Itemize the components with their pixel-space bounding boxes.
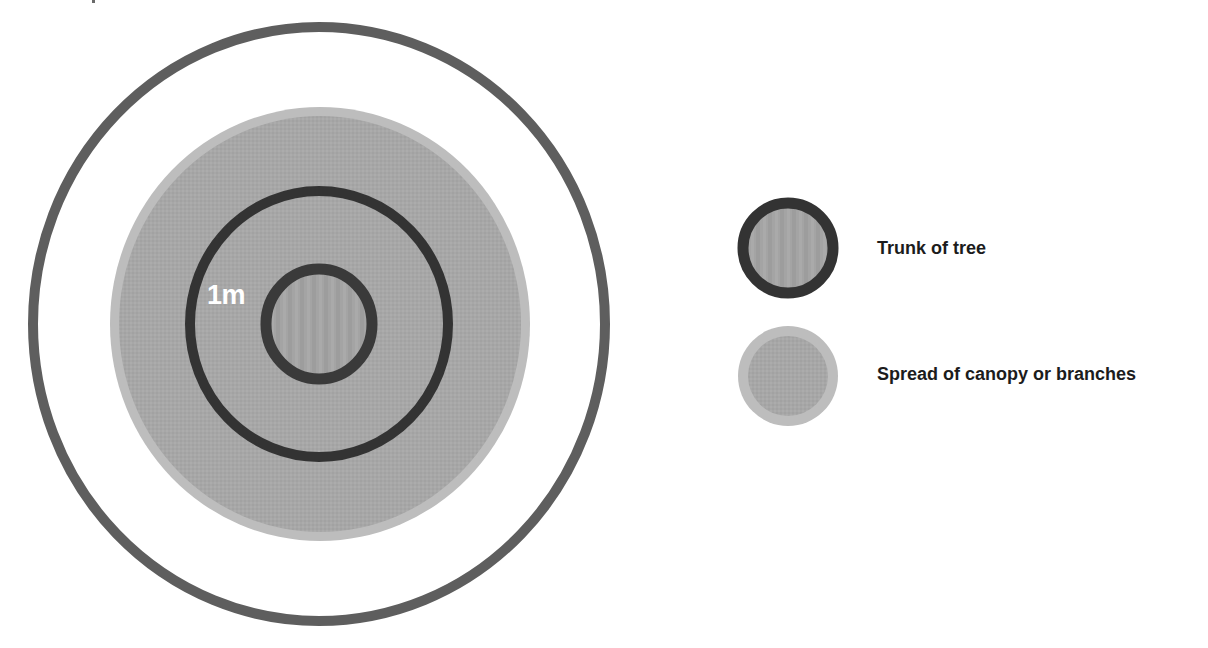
tree-protection-diagram <box>0 0 1208 648</box>
trunk-circle-icon <box>743 203 833 293</box>
legend-label-trunk: Trunk of tree <box>877 237 986 259</box>
legend-label-canopy: Spread of canopy or branches <box>877 363 1136 385</box>
canopy-circle-icon <box>738 326 838 426</box>
one-metre-label: 1m <box>207 280 245 310</box>
